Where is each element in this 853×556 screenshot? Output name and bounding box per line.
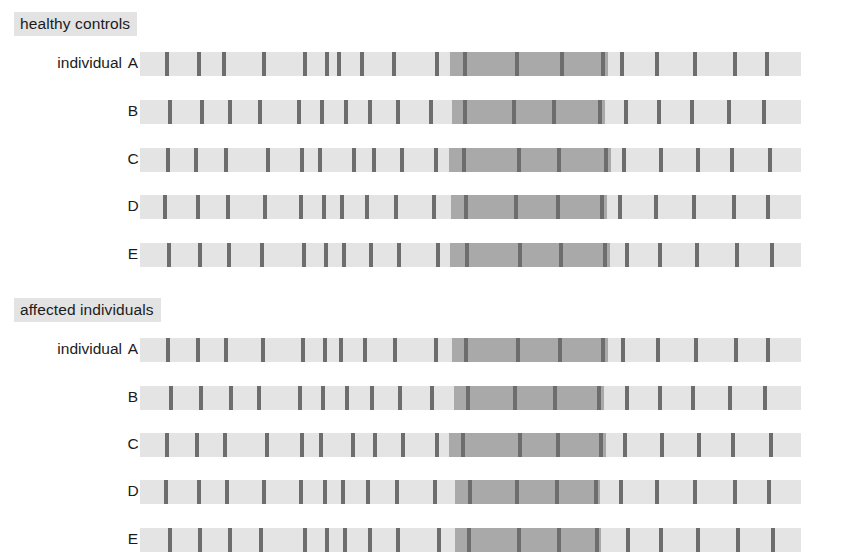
marker-tick bbox=[222, 52, 226, 76]
individual-id: D bbox=[126, 193, 140, 219]
marker-tick bbox=[396, 100, 400, 124]
marker-tick bbox=[262, 480, 266, 504]
marker-tick bbox=[225, 480, 229, 504]
marker-tick bbox=[297, 100, 301, 124]
marker-tick bbox=[434, 148, 438, 172]
marker-tick bbox=[517, 528, 521, 552]
marker-tick bbox=[342, 243, 346, 267]
marker-tick bbox=[319, 433, 323, 457]
marker-tick bbox=[658, 243, 662, 267]
individual-row: B bbox=[0, 384, 853, 410]
marker-tick bbox=[392, 52, 396, 76]
row-label bbox=[14, 241, 122, 267]
individual-row: individualA bbox=[0, 336, 853, 362]
marker-tick bbox=[762, 100, 766, 124]
marker-tick bbox=[227, 243, 231, 267]
marker-tick bbox=[622, 148, 626, 172]
marker-tick bbox=[351, 433, 355, 457]
marker-tick bbox=[352, 148, 356, 172]
marker-tick bbox=[434, 338, 438, 362]
marker-tick bbox=[553, 386, 557, 410]
marker-tick bbox=[733, 480, 737, 504]
marker-tick bbox=[300, 433, 304, 457]
marker-tick bbox=[301, 338, 305, 362]
marker-tick bbox=[165, 52, 169, 76]
marker-tick bbox=[463, 100, 467, 124]
marker-tick bbox=[299, 480, 303, 504]
marker-tick bbox=[321, 386, 325, 410]
chromosome-bar bbox=[140, 243, 801, 267]
marker-tick bbox=[323, 480, 327, 504]
marker-tick bbox=[598, 100, 602, 124]
marker-tick bbox=[461, 433, 465, 457]
marker-tick bbox=[618, 195, 622, 219]
marker-tick bbox=[696, 148, 700, 172]
marker-tick bbox=[324, 243, 328, 267]
marker-tick bbox=[344, 100, 348, 124]
chromosome-bar bbox=[140, 528, 801, 552]
marker-tick bbox=[559, 243, 563, 267]
row-label bbox=[14, 193, 122, 219]
marker-tick bbox=[166, 338, 170, 362]
marker-tick bbox=[557, 148, 561, 172]
marker-tick bbox=[197, 480, 201, 504]
marker-tick bbox=[368, 100, 372, 124]
marker-tick bbox=[552, 100, 556, 124]
marker-tick bbox=[223, 433, 227, 457]
shared-haplotype-block bbox=[454, 386, 604, 410]
marker-tick bbox=[595, 528, 599, 552]
marker-tick bbox=[515, 480, 519, 504]
marker-tick bbox=[302, 243, 306, 267]
marker-tick bbox=[429, 100, 433, 124]
marker-tick bbox=[436, 243, 440, 267]
chromosome-bar bbox=[140, 100, 801, 124]
marker-tick bbox=[196, 195, 200, 219]
marker-tick bbox=[430, 386, 434, 410]
marker-tick bbox=[556, 433, 560, 457]
marker-tick bbox=[557, 528, 561, 552]
marker-tick bbox=[366, 480, 370, 504]
haplotype-figure: healthy controlsindividualABCDEaffected … bbox=[0, 0, 853, 556]
marker-tick bbox=[766, 195, 770, 219]
shared-haplotype-block bbox=[452, 338, 608, 362]
marker-tick bbox=[372, 148, 376, 172]
marker-tick bbox=[468, 480, 472, 504]
marker-tick bbox=[199, 386, 203, 410]
marker-tick bbox=[603, 243, 607, 267]
marker-tick bbox=[341, 480, 345, 504]
individual-id: A bbox=[126, 50, 140, 76]
marker-tick bbox=[734, 338, 738, 362]
marker-tick bbox=[771, 528, 775, 552]
marker-tick bbox=[763, 386, 767, 410]
marker-tick bbox=[261, 338, 265, 362]
marker-tick bbox=[765, 52, 769, 76]
chromosome-bar bbox=[140, 433, 801, 457]
marker-tick bbox=[655, 480, 659, 504]
marker-tick bbox=[400, 148, 404, 172]
individual-id: E bbox=[126, 526, 140, 552]
marker-tick bbox=[320, 100, 324, 124]
marker-tick bbox=[736, 528, 740, 552]
marker-tick bbox=[228, 528, 232, 552]
marker-tick bbox=[518, 433, 522, 457]
marker-tick bbox=[766, 338, 770, 362]
marker-tick bbox=[303, 52, 307, 76]
shared-haplotype-block bbox=[449, 433, 606, 457]
individual-row: D bbox=[0, 478, 853, 504]
individual-row: E bbox=[0, 526, 853, 552]
marker-tick bbox=[659, 148, 663, 172]
chromosome-bar bbox=[140, 148, 801, 172]
marker-tick bbox=[393, 338, 397, 362]
marker-tick bbox=[464, 195, 468, 219]
marker-tick bbox=[433, 480, 437, 504]
marker-tick bbox=[197, 52, 201, 76]
marker-tick bbox=[340, 195, 344, 219]
marker-tick bbox=[298, 386, 302, 410]
chromosome-bar bbox=[140, 338, 801, 362]
marker-tick bbox=[597, 386, 601, 410]
marker-tick bbox=[169, 386, 173, 410]
marker-tick bbox=[343, 528, 347, 552]
marker-tick bbox=[337, 52, 341, 76]
row-label bbox=[14, 478, 122, 504]
marker-tick bbox=[625, 386, 629, 410]
